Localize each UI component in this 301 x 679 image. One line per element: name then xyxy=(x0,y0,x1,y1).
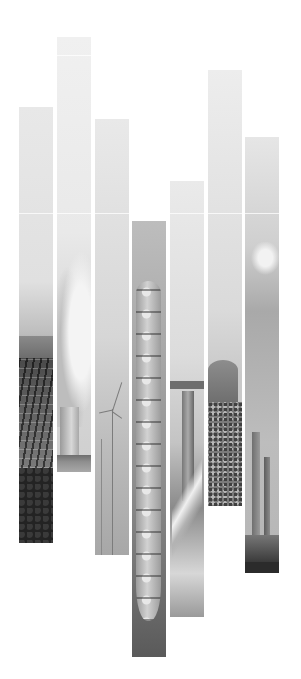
photo-strip-cooling-tower xyxy=(57,37,91,472)
tree-line xyxy=(245,562,279,573)
divider-line xyxy=(245,213,279,214)
photo-strip-wind-turbines xyxy=(95,119,129,555)
chimney xyxy=(264,457,270,542)
photo-strip-cargo-ship xyxy=(132,221,166,657)
photo-strip-barn-field xyxy=(208,70,242,506)
ship-hull xyxy=(136,281,161,621)
chimney xyxy=(252,432,260,542)
divider-line xyxy=(208,213,242,214)
divider-line xyxy=(57,213,91,214)
smoke-cloud xyxy=(245,242,279,282)
divider-line xyxy=(57,55,91,56)
bridge-deck xyxy=(170,381,204,389)
foliage xyxy=(19,468,53,543)
solar-panels xyxy=(19,358,53,468)
photo-strip-solar-panels xyxy=(19,107,53,543)
turbine-tower xyxy=(112,409,113,555)
cooling-tower xyxy=(60,407,79,455)
barn xyxy=(208,360,238,402)
divider-line xyxy=(95,213,129,214)
steam-plume xyxy=(57,237,91,427)
turbine-blade xyxy=(112,411,122,419)
photo-strip-chimneys xyxy=(245,137,279,573)
photo-strip-bridge xyxy=(170,181,204,617)
road-curve xyxy=(172,421,202,591)
turbine-blade xyxy=(112,382,122,411)
turbine-tower xyxy=(101,439,102,555)
crop-field xyxy=(208,402,242,506)
hill xyxy=(19,336,53,358)
ground xyxy=(57,455,91,472)
divider-line xyxy=(19,213,53,214)
divider-line xyxy=(170,213,204,214)
